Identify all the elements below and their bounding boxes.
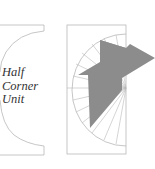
label-line-2: Corner: [2, 80, 38, 94]
diagram-canvas: Half Corner Unit: [0, 0, 155, 169]
spiral-stair-plan: [67, 25, 155, 154]
label-line-3: Unit: [2, 93, 38, 107]
unit-label: Half Corner Unit: [2, 66, 38, 107]
label-line-1: Half: [2, 66, 38, 80]
